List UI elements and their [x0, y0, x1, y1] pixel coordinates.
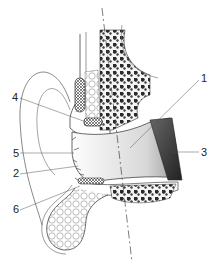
- cartilage-4-bar: [84, 118, 102, 126]
- label-1: 1: [201, 73, 207, 84]
- cartilage-cells: [85, 70, 100, 124]
- lower-lobe: [47, 188, 108, 250]
- label-5: 5: [13, 148, 19, 159]
- label-6: 6: [13, 204, 19, 215]
- cartilage-4-oval: [75, 78, 85, 112]
- auricle-inner-outline: [37, 89, 70, 175]
- ear-anatomy-figure: 1 2 3 4 5 6: [0, 0, 219, 269]
- lower-cartilage: [78, 178, 104, 184]
- label-3: 3: [201, 147, 207, 158]
- label-2: 2: [13, 168, 19, 179]
- leader-2: [20, 166, 78, 174]
- ear-cross-section-drawing: [0, 0, 219, 269]
- label-4: 4: [12, 92, 18, 103]
- upper-bone: [100, 30, 150, 130]
- lower-bone: [110, 184, 176, 203]
